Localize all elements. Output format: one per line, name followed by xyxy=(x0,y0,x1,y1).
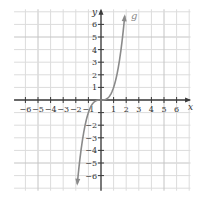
x-tick-label: 3 xyxy=(136,105,141,114)
x-tick-label: 6 xyxy=(174,105,179,114)
x-tick-label: 5 xyxy=(161,105,166,114)
x-axis-label: x xyxy=(188,102,193,112)
x-tick-label: 2 xyxy=(124,105,129,114)
y-tick-label: 4 xyxy=(92,46,97,55)
y-tick-label: 5 xyxy=(92,33,97,42)
x-tick-label: −5 xyxy=(32,105,44,114)
y-tick-label: −5 xyxy=(85,159,97,168)
x-tick-label: −3 xyxy=(57,105,69,114)
y-tick-label: −2 xyxy=(85,121,97,130)
y-tick-label: 1 xyxy=(92,83,97,92)
curve-label-g: g xyxy=(131,10,137,21)
x-tick-label: −6 xyxy=(20,105,32,114)
y-axis-label: y xyxy=(91,7,98,17)
y-tick-label: −3 xyxy=(85,134,97,143)
x-tick-label: 1 xyxy=(111,105,116,114)
y-tick-label: −4 xyxy=(85,146,97,155)
y-tick-label: −6 xyxy=(85,172,97,181)
y-tick-label: 3 xyxy=(92,58,97,67)
y-tick-label: 6 xyxy=(92,20,97,29)
x-tick-label: 4 xyxy=(149,105,154,114)
x-tick-label: −4 xyxy=(45,105,57,114)
x-tick-label: −2 xyxy=(70,105,82,114)
cubic-function-graph: −6−5−4−3−2−1123456654321−2−3−4−5−6 x y g xyxy=(0,0,198,200)
y-tick-label: 2 xyxy=(92,71,97,80)
